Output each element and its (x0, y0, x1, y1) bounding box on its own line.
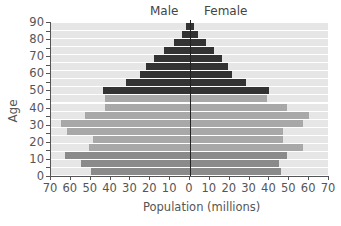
x-tick-label: 0 (185, 181, 192, 195)
female-bar-10-14 (190, 152, 287, 159)
x-tick-label: 60 (301, 181, 316, 195)
y-tick-label: 90 (18, 15, 44, 29)
y-tick-label: 80 (18, 32, 44, 46)
x-tick (328, 176, 329, 180)
male-bar-75-79 (164, 47, 190, 54)
population-pyramid-chart: 70605040302010010203040506070 0102030405… (0, 0, 341, 226)
male-bar-0-4 (91, 168, 190, 175)
male-bar-50-54 (103, 87, 190, 94)
y-tick (46, 99, 50, 100)
x-tick-label: 20 (221, 181, 236, 195)
y-tick-label: 30 (18, 118, 44, 132)
y-tick-label: 20 (18, 135, 44, 149)
male-bar-20-24 (93, 136, 190, 143)
female-bar-0-4 (190, 168, 281, 175)
female-bar-55-59 (190, 79, 246, 86)
female-bar-85-89 (190, 31, 198, 38)
x-tick-label: 20 (142, 181, 157, 195)
y-tick (46, 142, 50, 143)
x-tick-label: 70 (43, 181, 58, 195)
x-tick (268, 176, 269, 180)
x-tick (50, 176, 51, 180)
male-bar-30-34 (61, 120, 190, 127)
x-tick-label: 10 (202, 181, 217, 195)
female-bar-15-19 (190, 144, 303, 151)
y-tick-label: 40 (18, 101, 44, 115)
male-bar-70-74 (154, 55, 190, 62)
male-bar-45-49 (105, 95, 190, 102)
female-bar-80-84 (190, 39, 206, 46)
x-tick (129, 176, 130, 180)
male-bar-40-44 (105, 104, 190, 111)
female-bar-65-69 (190, 63, 228, 70)
x-tick (169, 176, 170, 180)
x-tick (90, 176, 91, 180)
y-tick (46, 108, 50, 109)
male-bar-35-39 (85, 112, 190, 119)
x-tick-label: 30 (241, 181, 256, 195)
female-label: Female (204, 4, 247, 18)
female-bar-30-34 (190, 120, 303, 127)
y-tick-label: 70 (18, 49, 44, 63)
y-tick (46, 65, 50, 66)
y-tick (46, 39, 50, 40)
x-tick-label: 50 (82, 181, 97, 195)
male-bar-65-69 (146, 63, 190, 70)
y-tick-label: 50 (18, 83, 44, 97)
y-tick (46, 159, 50, 160)
x-tick (229, 176, 230, 180)
x-tick (110, 176, 111, 180)
y-tick-label: 60 (18, 66, 44, 80)
female-bar-5-9 (190, 160, 279, 167)
male-bar-15-19 (89, 144, 190, 151)
x-axis-title: Population (millions) (143, 200, 260, 214)
male-bar-25-29 (67, 128, 190, 135)
female-bar-35-39 (190, 112, 309, 119)
center-axis-line (190, 20, 191, 176)
y-tick (46, 31, 50, 32)
x-tick-label: 40 (102, 181, 117, 195)
y-tick (46, 150, 50, 151)
x-tick (149, 176, 150, 180)
y-tick (46, 125, 50, 126)
x-tick (308, 176, 309, 180)
y-tick (46, 176, 50, 177)
x-tick (209, 176, 210, 180)
male-bar-55-59 (126, 79, 190, 86)
male-bar-5-9 (81, 160, 190, 167)
female-bar-25-29 (190, 128, 283, 135)
female-bar-60-64 (190, 71, 232, 78)
y-tick (46, 116, 50, 117)
female-bar-70-74 (190, 55, 222, 62)
y-tick (46, 90, 50, 91)
y-tick (46, 73, 50, 74)
x-tick-label: 50 (281, 181, 296, 195)
x-tick-label: 70 (321, 181, 336, 195)
plot-area (50, 22, 328, 176)
y-tick (46, 22, 50, 23)
y-tick-label: 10 (18, 152, 44, 166)
y-tick (46, 56, 50, 57)
x-tick (189, 176, 190, 180)
male-bar-85-89 (182, 31, 190, 38)
female-bar-75-79 (190, 47, 214, 54)
x-tick (249, 176, 250, 180)
male-bar-80-84 (174, 39, 190, 46)
y-axis-title: Age (6, 99, 20, 122)
male-label: Male (150, 4, 178, 18)
y-axis (50, 22, 51, 176)
y-tick (46, 167, 50, 168)
female-bar-40-44 (190, 104, 287, 111)
x-tick (70, 176, 71, 180)
y-tick (46, 48, 50, 49)
x-tick-label: 40 (261, 181, 276, 195)
female-bar-50-54 (190, 87, 269, 94)
x-tick-label: 30 (122, 181, 137, 195)
female-bar-45-49 (190, 95, 267, 102)
x-tick-label: 10 (162, 181, 177, 195)
male-bar-10-14 (65, 152, 190, 159)
x-tick-label: 60 (63, 181, 78, 195)
y-tick-label: 0 (18, 169, 44, 183)
female-bar-20-24 (190, 136, 283, 143)
y-tick (46, 82, 50, 83)
